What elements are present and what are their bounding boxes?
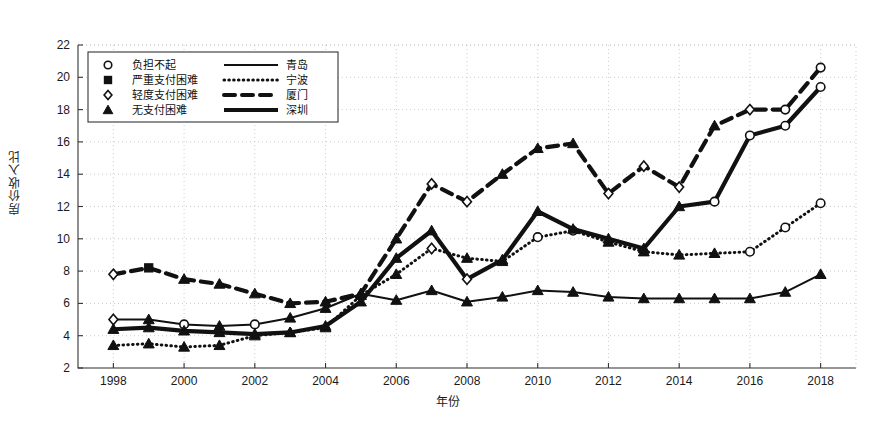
legend-marker-label-2: 严重支付困难 (132, 73, 198, 87)
svg-text:1998: 1998 (100, 374, 127, 388)
svg-text:6: 6 (63, 296, 70, 310)
svg-text:16: 16 (57, 135, 71, 149)
legend-line-label-2: 宁波 (286, 73, 308, 87)
svg-text:2016: 2016 (737, 374, 764, 388)
svg-text:2006: 2006 (383, 374, 410, 388)
x-axis-title: 年份 (0, 392, 896, 409)
svg-text:12: 12 (57, 200, 71, 214)
svg-text:20: 20 (57, 70, 71, 84)
svg-text:10: 10 (57, 232, 71, 246)
svg-text:2000: 2000 (171, 374, 198, 388)
svg-text:8: 8 (63, 264, 70, 278)
svg-text:2008: 2008 (454, 374, 481, 388)
svg-text:22: 22 (57, 38, 71, 52)
svg-text:2004: 2004 (312, 374, 339, 388)
legend-line-label-3: 厦门 (286, 88, 308, 102)
svg-text:2010: 2010 (524, 374, 551, 388)
legend-line-label-1: 青岛 (286, 58, 308, 72)
svg-text:2012: 2012 (595, 374, 622, 388)
svg-text:18: 18 (57, 103, 71, 117)
svg-text:2018: 2018 (807, 374, 834, 388)
svg-text:2014: 2014 (666, 374, 693, 388)
svg-text:2: 2 (63, 361, 70, 375)
chart-figure: 2468101214161820221998200020022004200620… (0, 0, 896, 425)
legend-marker-label-4: 无支付困难 (132, 104, 187, 117)
svg-text:2002: 2002 (241, 374, 268, 388)
legend-line-label-4: 深圳 (286, 104, 308, 117)
svg-text:4: 4 (63, 329, 70, 343)
legend-marker-label-3: 轻度支付困难 (132, 88, 198, 102)
svg-text:14: 14 (57, 167, 71, 181)
chart-canvas: 2468101214161820221998200020022004200620… (0, 0, 896, 425)
legend-marker-label-1: 负担不起 (132, 58, 176, 72)
chart-legend: 负担不起严重支付困难轻度支付困难无支付困难青岛宁波厦门深圳 (88, 52, 338, 122)
y-axis-title: 房价收入比 (6, 150, 26, 215)
